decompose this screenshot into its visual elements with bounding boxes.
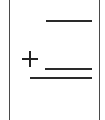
plus-icon: + [22,51,38,67]
addend-1-blank[interactable] [46,20,92,22]
operator-label: + [22,51,23,52]
sum-rule [30,77,92,79]
addend-2-value [45,68,46,69]
addend-2-blank[interactable] [45,68,92,70]
addend-1-value [46,20,47,21]
sum-value [30,77,31,78]
